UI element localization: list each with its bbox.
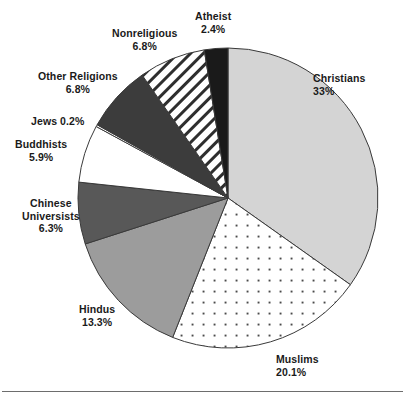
pie-label-line: Universists xyxy=(22,210,80,223)
pie-label-line: Hindus xyxy=(79,303,115,316)
footer-divider xyxy=(2,391,403,392)
pie-label-line: 5.9% xyxy=(15,151,67,164)
pie-label-atheist: Atheist2.4% xyxy=(195,10,231,35)
pie-label-line: 6.8% xyxy=(112,40,177,53)
pie-label-jews: Jews 0.2% xyxy=(31,115,84,128)
pie-label-nonreligious: Nonreligious6.8% xyxy=(112,27,177,52)
pie-label-muslims: Muslims20.1% xyxy=(276,353,319,378)
pie-label-line: Chinese xyxy=(22,197,80,210)
pie-label-line: 33% xyxy=(313,85,365,98)
pie-label-line: 6.3% xyxy=(22,222,80,235)
pie-label-line: 2.4% xyxy=(195,23,231,36)
pie-label-line: Muslims xyxy=(276,353,319,366)
pie-label-line: Other Religions xyxy=(38,70,118,83)
pie-label-other-religions: Other Religions6.8% xyxy=(38,70,118,95)
pie-label-line: Atheist xyxy=(195,10,231,23)
pie-label-christians: Christians33% xyxy=(313,72,365,97)
pie-label-line: 13.3% xyxy=(79,316,115,329)
pie-label-buddhists: Buddhists5.9% xyxy=(15,138,67,163)
pie-label-chinese-universists: ChineseUniversists6.3% xyxy=(22,197,80,235)
pie-chart-figure: Christians33%Muslims20.1%Hindus13.3%Chin… xyxy=(0,0,405,401)
pie-label-line: Buddhists xyxy=(15,138,67,151)
pie-label-line: 6.8% xyxy=(38,83,118,96)
pie-label-line: Christians xyxy=(313,72,365,85)
pie-label-line: Jews 0.2% xyxy=(31,115,84,128)
pie-label-hindus: Hindus13.3% xyxy=(79,303,115,328)
pie-label-line: 20.1% xyxy=(276,366,319,379)
pie-label-line: Nonreligious xyxy=(112,27,177,40)
